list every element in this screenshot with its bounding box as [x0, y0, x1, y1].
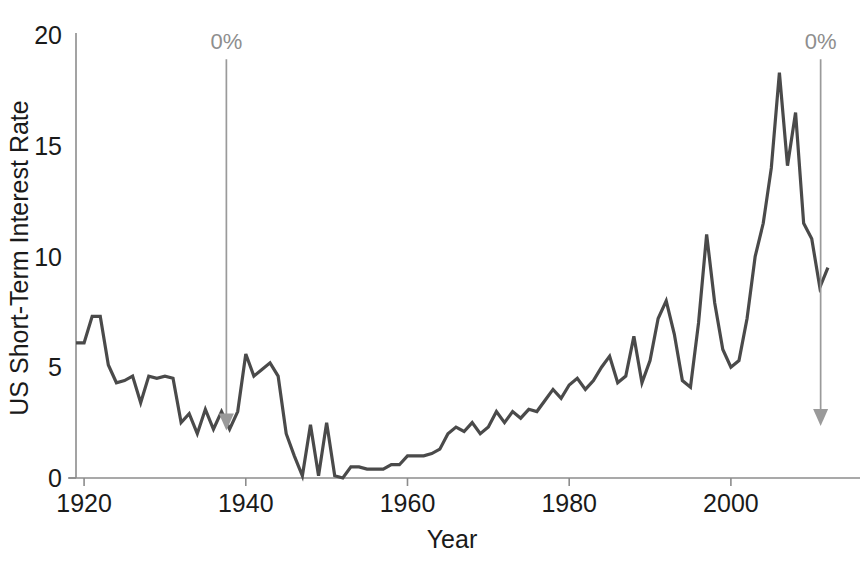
- x-tick-label-2000: 2000: [703, 489, 759, 517]
- y-tick-label-0: 0: [48, 464, 62, 492]
- x-tick-label-1960: 1960: [380, 489, 436, 517]
- x-tick-label-1920: 1920: [56, 489, 112, 517]
- x-tick-label-1940: 1940: [218, 489, 274, 517]
- y-tick-label-20: 20: [34, 21, 62, 49]
- y-tick-label-5: 5: [48, 353, 62, 381]
- series-line-0: [76, 73, 828, 478]
- annotation-label-zero-percent-0: 0%: [210, 29, 242, 54]
- annotation-group: 0%0%: [210, 29, 836, 430]
- x-tick-label-1980: 1980: [541, 489, 597, 517]
- y-axis-tick-labels: 05101520: [34, 21, 62, 492]
- x-axis-title: Year: [427, 525, 478, 553]
- data-series-group: [76, 73, 828, 478]
- y-axis-title: US Short-Term Interest Rate: [5, 100, 33, 415]
- interest-rate-line-chart: 05101520 19201940196019802000 0%0% US Sh…: [0, 0, 865, 567]
- y-tick-label-15: 15: [34, 132, 62, 160]
- x-axis-tick-labels: 19201940196019802000: [56, 489, 758, 517]
- chart-container: 05101520 19201940196019802000 0%0% US Sh…: [0, 0, 865, 567]
- y-tick-label-10: 10: [34, 243, 62, 271]
- annotation-arrow-head-1: [813, 409, 828, 426]
- annotation-label-zero-percent-1: 0%: [805, 29, 837, 54]
